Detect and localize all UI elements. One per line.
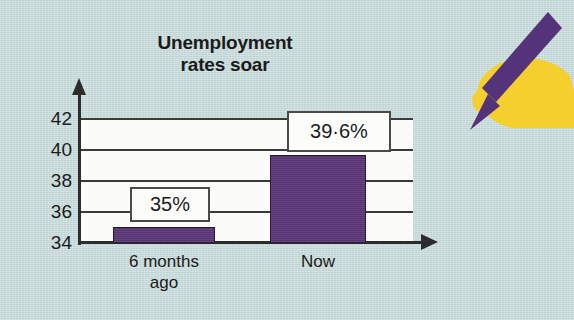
y-tick-label-34: 34 xyxy=(28,233,72,252)
y-axis-tick-labels: 42 40 38 36 34 xyxy=(20,0,72,320)
data-label-now: 39·6% xyxy=(287,111,391,152)
y-tick-label-40: 40 xyxy=(28,140,72,159)
hand-holding-pencil-icon xyxy=(452,6,574,136)
x-category-label-now: Now xyxy=(268,251,368,272)
chart-figure: Unemployment rates soar 42 40 38 36 34 3… xyxy=(0,0,574,320)
y-tick-label-36: 36 xyxy=(28,202,72,221)
y-axis-arrow-icon xyxy=(72,78,86,95)
y-tick-label-42: 42 xyxy=(28,109,72,128)
data-label-6-months-ago: 35% xyxy=(130,187,210,222)
y-axis-line xyxy=(78,92,81,245)
y-tick-label-38: 38 xyxy=(28,171,72,190)
x-axis-arrow-icon xyxy=(421,234,438,250)
bar-now xyxy=(270,155,366,243)
x-category-label-6-months-ago: 6 months ago xyxy=(96,251,232,294)
bar-6-months-ago xyxy=(113,227,215,243)
chart-title: Unemployment rates soar xyxy=(60,32,390,76)
